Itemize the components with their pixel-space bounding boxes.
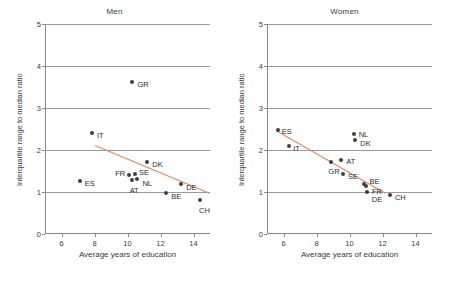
data-point [135, 177, 139, 181]
x-tick-label: 14 [411, 239, 419, 248]
data-point [179, 182, 183, 186]
data-point [352, 132, 356, 136]
gridline [267, 150, 432, 151]
data-point [364, 184, 368, 188]
x-tick-mark [284, 234, 285, 237]
data-point [164, 191, 168, 195]
data-point [145, 160, 149, 164]
panel-men: Men 01234568101214Average years of educa… [0, 0, 229, 283]
data-point-label: SE [348, 173, 358, 181]
data-point-label: AT [130, 187, 139, 195]
data-point-label: GR [137, 81, 148, 89]
data-point [127, 173, 131, 177]
x-tick-label: 8 [314, 239, 318, 248]
panel-title: Men [0, 7, 229, 16]
y-tick-label: 4 [259, 62, 263, 71]
data-point-label: IT [97, 132, 104, 140]
y-tick-label: 2 [259, 146, 263, 155]
y-tick-label: 3 [37, 104, 41, 113]
data-point-label: FR [115, 170, 125, 178]
data-point-label: CH [395, 194, 406, 202]
y-tick-label: 1 [37, 188, 41, 197]
y-tick-label: 2 [37, 146, 41, 155]
y-tick-mark [264, 234, 267, 235]
data-point-label: DE [372, 196, 382, 204]
x-tick-mark [317, 234, 318, 237]
y-tick-label: 0 [37, 230, 41, 239]
data-point [133, 172, 137, 176]
data-point [365, 190, 369, 194]
x-tick-mark [416, 234, 417, 237]
data-point [287, 144, 291, 148]
x-tick-mark [194, 234, 195, 237]
gridline [267, 24, 432, 25]
data-point [329, 160, 333, 164]
data-point-label: AT [346, 158, 355, 166]
gridline [45, 24, 210, 25]
data-point [198, 198, 202, 202]
data-point [341, 172, 345, 176]
x-tick-label: 6 [281, 239, 285, 248]
data-point-label: BE [171, 193, 181, 201]
y-axis-title: Interquartile range to median ratio [237, 73, 246, 186]
y-tick-label: 5 [259, 20, 263, 29]
x-tick-label: 12 [378, 239, 386, 248]
data-point [130, 80, 134, 84]
gridline [45, 192, 210, 193]
y-axis-line [267, 24, 268, 234]
x-axis-title: Average years of education [45, 250, 210, 259]
data-point [353, 138, 357, 142]
y-tick-mark [42, 234, 45, 235]
gridline [267, 108, 432, 109]
data-point-label: DK [152, 161, 162, 169]
panel-women: Women 01234568101214Average years of edu… [230, 0, 459, 283]
data-point [339, 158, 343, 162]
x-tick-label: 8 [92, 239, 96, 248]
x-tick-label: 14 [189, 239, 197, 248]
data-point-label: DE [186, 184, 196, 192]
data-point [388, 193, 392, 197]
data-point [276, 128, 280, 132]
x-tick-mark [350, 234, 351, 237]
y-axis-title: Interquartile range to median ratio [15, 73, 24, 186]
x-tick-mark [161, 234, 162, 237]
data-point [90, 131, 94, 135]
data-point-label: DK [360, 140, 370, 148]
y-tick-label: 0 [259, 230, 263, 239]
gridline [45, 108, 210, 109]
data-point-label: ES [282, 128, 292, 136]
data-point-label: NL [142, 180, 152, 188]
y-tick-label: 1 [259, 188, 263, 197]
x-tick-mark [95, 234, 96, 237]
y-tick-label: 3 [259, 104, 263, 113]
x-tick-mark [383, 234, 384, 237]
x-tick-label: 12 [156, 239, 164, 248]
gridline [45, 66, 210, 67]
y-tick-label: 4 [37, 62, 41, 71]
x-tick-label: 10 [345, 239, 353, 248]
data-point-label: BE [370, 178, 380, 186]
y-axis-line [45, 24, 46, 234]
data-point-label: NL [359, 131, 369, 139]
data-point-label: IT [293, 145, 300, 153]
plot-area-women: 01234568101214Average years of education… [267, 24, 432, 234]
x-axis-title: Average years of education [267, 250, 432, 259]
x-tick-mark [62, 234, 63, 237]
data-point-label: SE [139, 169, 149, 177]
plot-area-men: 01234568101214Average years of education… [45, 24, 210, 234]
panel-title: Women [230, 7, 459, 16]
data-point-label: CH [199, 207, 210, 215]
data-point [130, 178, 134, 182]
gridline [45, 150, 210, 151]
x-tick-label: 6 [59, 239, 63, 248]
gridline [267, 192, 432, 193]
y-tick-label: 5 [37, 20, 41, 29]
x-tick-mark [128, 234, 129, 237]
data-point [78, 179, 82, 183]
data-point-label: GR [328, 168, 339, 176]
two-panel-scatter-figure: Men 01234568101214Average years of educa… [0, 0, 459, 283]
gridline [267, 66, 432, 67]
x-tick-label: 10 [123, 239, 131, 248]
data-point-label: ES [85, 180, 95, 188]
